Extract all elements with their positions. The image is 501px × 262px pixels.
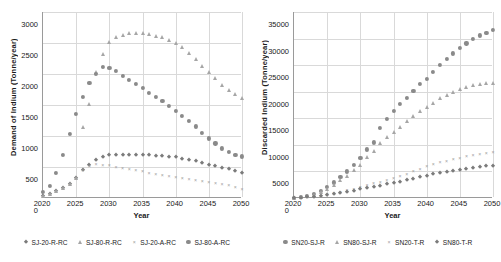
data-point: × — [478, 151, 482, 155]
legend-item[interactable]: ×SJ-20-A-RC — [131, 239, 176, 246]
x-axis-label: Year — [42, 211, 241, 220]
x-axis-tick-label: 2030 — [100, 199, 117, 208]
legend-item[interactable]: SN80-T-R — [433, 239, 472, 246]
data-point: × — [233, 184, 237, 188]
data-point — [160, 99, 164, 103]
legend-label: SN80-T-R — [443, 239, 472, 246]
data-point — [101, 64, 105, 68]
data-point — [384, 182, 389, 187]
data-point — [240, 154, 244, 158]
data-point — [431, 172, 436, 177]
data-point: × — [114, 164, 118, 168]
data-point — [458, 87, 462, 91]
y-axis-tick-label: 20000 — [268, 99, 289, 108]
x-axis-tick-label: 2040 — [166, 199, 183, 208]
y-axis-ticks: 050010001500200025003000 — [16, 12, 40, 198]
data-point — [233, 92, 237, 96]
data-point — [445, 93, 449, 97]
data-point: × — [160, 173, 164, 177]
data-point — [220, 83, 224, 87]
data-point — [213, 141, 217, 145]
legend-item[interactable]: SJ-80-R-RC — [76, 239, 121, 246]
data-point: × — [451, 157, 455, 161]
data-point — [431, 69, 435, 73]
data-point — [200, 161, 205, 166]
data-point — [48, 184, 52, 188]
gridline-vertical — [493, 12, 494, 197]
data-point: × — [464, 154, 468, 158]
y-axis-tick-label: 1000 — [21, 144, 38, 153]
data-point — [391, 109, 395, 113]
x-axis-tick-label: 2035 — [384, 199, 401, 208]
data-point — [425, 105, 429, 109]
data-point — [464, 41, 468, 45]
data-point — [240, 170, 245, 175]
data-point — [345, 190, 350, 195]
data-point: × — [424, 164, 428, 168]
data-point — [240, 96, 244, 100]
data-point — [365, 186, 370, 191]
data-point — [174, 108, 178, 112]
data-point: × — [61, 186, 65, 190]
data-point — [378, 183, 383, 188]
data-point: × — [54, 189, 58, 193]
data-point — [431, 101, 435, 105]
data-point — [133, 152, 138, 157]
data-point: × — [398, 173, 402, 177]
data-point — [154, 34, 158, 38]
data-point — [491, 163, 496, 168]
data-point — [81, 95, 85, 99]
data-point — [120, 152, 125, 157]
data-point: × — [154, 172, 158, 176]
data-point: × — [173, 175, 177, 179]
x-axis-tick-label: 2050 — [484, 199, 501, 208]
data-point: × — [81, 168, 85, 172]
data-point — [227, 88, 231, 92]
plot-area: ××××××××××××××××××××××××××××××× — [42, 12, 241, 198]
legend-item[interactable]: SN80-SJ-R — [334, 239, 377, 246]
legend-label: SN80-SJ-R — [343, 239, 376, 246]
y-axis-tick-label: 35000 — [268, 20, 289, 29]
data-point: × — [120, 165, 124, 169]
data-point — [174, 41, 178, 45]
data-point — [220, 165, 225, 170]
gridline-vertical — [209, 12, 210, 197]
y-axis-tick-label: 30000 — [268, 46, 289, 55]
data-point: × — [227, 182, 231, 186]
data-point — [233, 153, 237, 157]
chart-panel-demand: Demand of Indium (Tonne/year) 0500100015… — [0, 0, 250, 262]
legend-item[interactable]: SJ-20-R-RC — [22, 239, 67, 246]
data-point: × — [431, 162, 435, 166]
data-point — [491, 81, 495, 85]
data-point — [392, 130, 396, 134]
data-point — [345, 174, 349, 178]
x-axis-tick-label: 2040 — [417, 199, 434, 208]
data-point — [100, 155, 105, 160]
data-point — [424, 173, 429, 178]
x-axis-tick-label: 2045 — [450, 199, 467, 208]
data-point: × — [74, 175, 78, 179]
data-point — [61, 153, 65, 157]
data-point — [398, 102, 402, 106]
data-point — [147, 32, 151, 36]
data-point — [398, 125, 402, 129]
data-point — [365, 147, 369, 151]
legend-item[interactable]: SN20-SJ-R — [282, 239, 325, 246]
data-point — [477, 165, 482, 170]
data-point — [451, 51, 455, 55]
data-point — [134, 82, 138, 86]
legend-item[interactable]: ×SN20-T-R — [386, 239, 425, 246]
x-axis-tick-label: 2050 — [233, 199, 250, 208]
data-point — [154, 95, 158, 99]
y-axis-tick-label: 5000 — [272, 179, 289, 188]
data-point: × — [458, 155, 462, 159]
data-point: × — [127, 167, 131, 171]
data-point — [484, 81, 488, 85]
data-point — [74, 112, 78, 116]
data-point — [471, 83, 475, 87]
data-point: × — [240, 186, 244, 190]
legend-label: SJ-20-R-RC — [32, 239, 68, 246]
data-point — [464, 85, 468, 89]
legend-item[interactable]: SJ-80-A-RC — [185, 239, 230, 246]
legend-marker-icon — [185, 239, 192, 246]
